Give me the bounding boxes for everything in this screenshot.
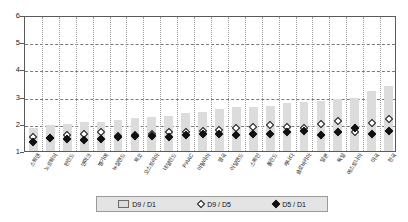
gridline-vertical (93, 17, 94, 151)
x-axis-tick-label: 캐나다 (283, 153, 295, 168)
x-axis-tick-label: 에스토니아 (346, 153, 363, 176)
gridline-vertical (279, 17, 280, 151)
gridline-horizontal (25, 71, 395, 72)
y-axis-tick-label: 4 (0, 66, 20, 74)
plot-area (24, 16, 396, 152)
legend-item[interactable]: D5 / D1 (273, 201, 306, 208)
gridline-vertical (59, 17, 60, 151)
y-axis-tick-mark (20, 70, 24, 71)
gridline-vertical (143, 17, 144, 151)
gridline-vertical (228, 17, 229, 151)
x-axis-tick-label: 한국 (387, 153, 397, 164)
gridline-vertical (296, 17, 297, 151)
gridline-vertical (76, 17, 77, 151)
gridline-vertical (42, 17, 43, 151)
gridline-vertical (363, 17, 364, 151)
x-axis-tick-label: 이탈리아 (196, 153, 211, 172)
x-axis-tick-label: 네덜란드 (163, 153, 178, 172)
y-axis-tick-label: 3 (0, 94, 20, 102)
gridline-vertical (110, 17, 111, 151)
gridline-vertical (329, 17, 330, 151)
legend-bar-swatch-icon (118, 200, 129, 208)
x-axis-tick-label: 폴란드 (267, 153, 279, 168)
x-axis-tick-label: 노르웨이 (44, 153, 59, 172)
y-axis-tick-label: 1 (0, 148, 20, 156)
gridline-vertical (380, 17, 381, 151)
gridline-vertical (262, 17, 263, 151)
y-axis-tick-mark (20, 43, 24, 44)
y-axis-tick-mark (20, 125, 24, 126)
x-axis-tick-label: 덴마크 (81, 153, 93, 168)
chart-legend: D9 / D1D9 / D5D5 / D1 (96, 196, 328, 212)
y-axis-tick-mark (20, 16, 24, 17)
x-axis-tick-label: 독일 (337, 153, 347, 164)
x-axis-tick-label: 미국 (371, 153, 381, 164)
gridline-vertical (194, 17, 195, 151)
gridline-vertical (160, 17, 161, 151)
wage-dispersion-chart: 123456 스웨덴노르웨이핀란드덴마크벨기에뉴질랜드체코오스트리아네덜란드PI… (0, 0, 408, 222)
gridline-vertical (126, 17, 127, 151)
x-axis-tick-label: 영국 (218, 153, 228, 164)
x-axis-tick-label: PIAAC (182, 153, 195, 169)
legend-item[interactable]: D9 / D5 (198, 201, 231, 208)
legend-label: D9 / D5 (207, 201, 231, 208)
legend-item[interactable]: D9 / D1 (118, 200, 156, 208)
x-axis-tick-label: 일본 (320, 153, 330, 164)
legend-label: D5 / D1 (282, 201, 306, 208)
x-axis-tick-label: 스웨덴 (30, 153, 42, 168)
gridline-vertical (312, 17, 313, 151)
x-axis-tick-label: 슬로바키아 (295, 153, 312, 176)
x-axis-tick-label: 체코 (134, 153, 144, 164)
y-axis-tick-label: 6 (0, 12, 20, 20)
x-axis-tick-label: 오스트리아 (143, 153, 160, 176)
gridline-vertical (211, 17, 212, 151)
y-axis-tick-label: 5 (0, 39, 20, 47)
x-axis-tick-label: 핀란드 (64, 153, 76, 168)
legend-label: D9 / D1 (132, 201, 156, 208)
x-axis-labels: 스웨덴노르웨이핀란드덴마크벨기에뉴질랜드체코오스트리아네덜란드PIAAC이탈리아… (24, 153, 396, 193)
gridline-vertical (245, 17, 246, 151)
legend-open-diamond-icon (197, 200, 205, 208)
x-axis-tick-label: 뉴질랜드 (112, 153, 127, 172)
gridline-horizontal (25, 44, 395, 45)
x-axis-tick-label: 아일랜드 (230, 153, 245, 172)
legend-filled-diamond-icon (272, 200, 280, 208)
y-axis-tick-mark (20, 98, 24, 99)
gridline-vertical (177, 17, 178, 151)
x-axis-tick-label: 스페인 (250, 153, 262, 168)
gridline-vertical (346, 17, 347, 151)
y-axis-tick-label: 2 (0, 121, 20, 129)
x-axis-tick-label: 벨기에 (97, 153, 109, 168)
